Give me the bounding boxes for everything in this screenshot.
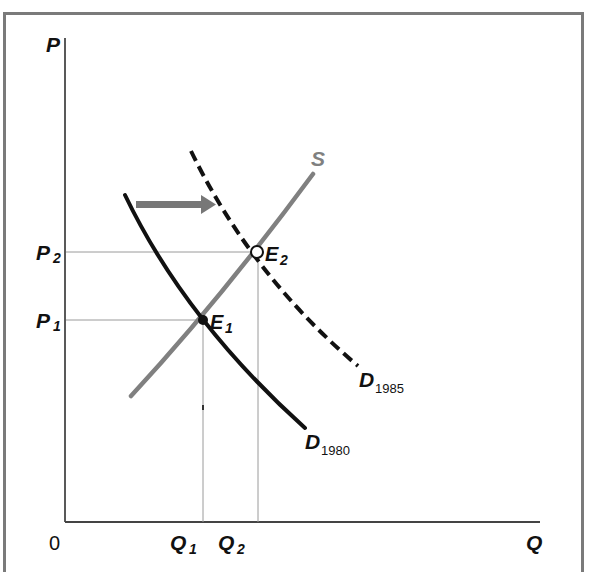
e1-label: E (210, 311, 224, 333)
q2-subscript: 2 (236, 541, 245, 557)
p2-label: P (36, 241, 51, 264)
demand-shift-arrow-icon (136, 195, 216, 214)
q1-subscript: 1 (189, 541, 197, 557)
p-axis-label: P (46, 33, 61, 56)
equilibrium-point-e1 (198, 315, 208, 325)
q1-label: Q (170, 531, 186, 554)
p1-subscript: 1 (53, 318, 61, 334)
d1980-subscript: 1980 (321, 443, 350, 458)
p2-subscript: 2 (52, 250, 61, 266)
d1985-subscript: 1985 (375, 381, 404, 396)
origin-label: 0 (49, 532, 60, 554)
equilibrium-point-e2 (251, 246, 263, 258)
p1-label: P (36, 309, 51, 332)
d1980-label: D (305, 430, 320, 453)
supply-label: S (311, 147, 325, 170)
e2-label: E (265, 243, 279, 265)
q2-label: Q (218, 531, 234, 554)
q-axis-label: Q (526, 531, 542, 554)
e1-subscript: 1 (225, 320, 233, 336)
d1985-label: D (359, 368, 374, 391)
e2-subscript: 2 (279, 252, 288, 268)
